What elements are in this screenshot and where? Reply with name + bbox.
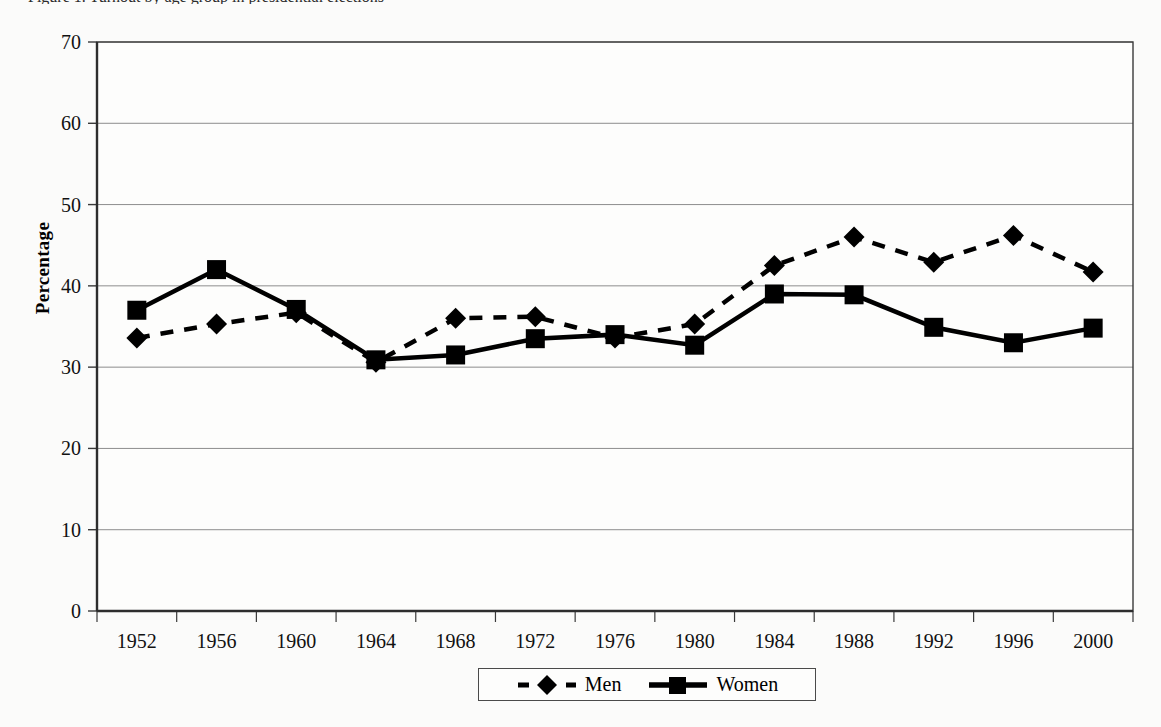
data-point-women: [366, 350, 385, 369]
y-tick-label: 30: [61, 356, 81, 378]
x-tick-label: 1956: [197, 630, 237, 652]
x-tick-label: 1972: [515, 630, 555, 652]
x-tick-label: 1964: [356, 630, 396, 652]
x-tick-label: 1984: [754, 630, 794, 652]
data-point-women: [1004, 333, 1023, 352]
data-point-women: [685, 336, 704, 355]
x-tick-label: 1996: [993, 630, 1033, 652]
x-tick-label: 1976: [595, 630, 635, 652]
figure-root: Figure 1. Turnout by age group in presid…: [0, 0, 1161, 727]
legend-diamond-marker: [537, 675, 557, 695]
y-tick-label: 50: [61, 194, 81, 216]
legend-label: Women: [716, 674, 778, 694]
y-tick-label: 70: [61, 31, 81, 53]
chart-legend: MenWomen: [478, 668, 816, 701]
data-point-women: [924, 318, 943, 337]
x-tick-label: 1968: [436, 630, 476, 652]
y-tick-label: 20: [61, 437, 81, 459]
data-point-women: [606, 325, 625, 344]
x-tick-label: 1980: [675, 630, 715, 652]
data-point-women: [446, 345, 465, 364]
x-tick-label: 1992: [914, 630, 954, 652]
chart-plot-area: 010203040506070 195219561960196419681972…: [0, 0, 1161, 660]
x-tick-label: 1960: [276, 630, 316, 652]
legend-swatch-square-marker: [647, 675, 709, 695]
data-point-women: [1084, 319, 1103, 338]
data-point-women: [207, 260, 226, 279]
legend-swatch-diamond-marker: [516, 675, 578, 695]
y-tick-label: 60: [61, 112, 81, 134]
data-point-women: [287, 300, 306, 319]
y-tick-label: 10: [61, 519, 81, 541]
y-axis: 010203040506070: [61, 31, 97, 622]
legend-item-men: Men: [516, 675, 622, 695]
data-point-women: [127, 301, 146, 320]
y-tick-label: 40: [61, 275, 81, 297]
y-tick-label: 0: [71, 600, 81, 622]
legend-label: Men: [585, 674, 622, 694]
data-point-women: [765, 284, 784, 303]
x-tick-label: 2000: [1073, 630, 1113, 652]
x-tick-label: 1988: [834, 630, 874, 652]
x-tick-label: 1952: [117, 630, 157, 652]
legend-square-marker: [669, 677, 686, 694]
legend-item-women: Women: [647, 675, 778, 695]
x-axis: 1952195619601964196819721976198019841988…: [97, 611, 1133, 652]
data-point-women: [845, 285, 864, 304]
data-point-women: [526, 329, 545, 348]
